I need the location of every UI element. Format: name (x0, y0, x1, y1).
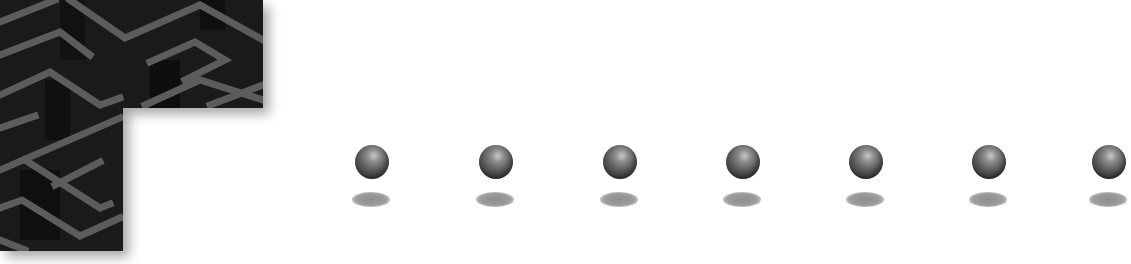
ball-shadow (969, 192, 1007, 207)
sphere-icon (355, 145, 389, 179)
ball-shadow (476, 192, 514, 207)
sphere-icon (479, 145, 513, 179)
ball-5 (846, 145, 886, 209)
ball-1 (352, 145, 392, 209)
ball-shadow (352, 192, 390, 207)
sphere-icon (849, 145, 883, 179)
sphere-icon (972, 145, 1006, 179)
ball-3 (600, 145, 640, 209)
ball-shadow (846, 192, 884, 207)
ball-shadow (723, 192, 761, 207)
ball-4 (723, 145, 763, 209)
ball-2 (476, 145, 516, 209)
ball-shadow (1089, 192, 1127, 207)
maze-pattern-icon (0, 0, 264, 252)
sphere-icon (603, 145, 637, 179)
sphere-icon (1092, 145, 1126, 179)
ball-shadow (600, 192, 638, 207)
sphere-icon (726, 145, 760, 179)
ball-6 (969, 145, 1009, 209)
ball-7 (1089, 145, 1129, 209)
maze-block-image (0, 0, 264, 252)
